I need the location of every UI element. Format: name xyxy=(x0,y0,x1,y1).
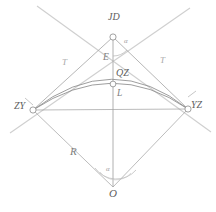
label-jd: JD xyxy=(108,12,120,22)
chord-line-zy-yz xyxy=(34,109,187,110)
label-qz: QZ xyxy=(116,68,129,78)
label-radius-r: R xyxy=(70,146,77,157)
label-tangent-left-t: T xyxy=(62,58,67,67)
point-marker-qz xyxy=(110,81,116,87)
label-angle-alpha-jd: α xyxy=(124,38,128,45)
tangent-lines-group xyxy=(10,6,211,133)
curve-elements-diagram: JD ZY YZ QZ O E L R T T α α xyxy=(0,0,216,212)
point-markers-group xyxy=(30,34,191,113)
label-o: O xyxy=(109,188,117,199)
point-marker-jd xyxy=(110,34,116,40)
segment-jd-zy xyxy=(33,37,113,110)
label-external-distance-e: E xyxy=(103,53,109,63)
label-yz: YZ xyxy=(191,100,202,110)
diagram-canvas xyxy=(0,0,216,212)
tangent-tick-left xyxy=(25,98,33,105)
arc-main xyxy=(33,83,188,110)
tangent-tick-right xyxy=(188,91,196,97)
point-marker-zy xyxy=(30,107,36,113)
label-tangent-right-t: T xyxy=(160,56,165,65)
label-angle-alpha-o: α xyxy=(106,166,110,173)
radius-line-right xyxy=(113,109,188,187)
label-curve-length-l: L xyxy=(117,89,122,99)
label-zy: ZY xyxy=(14,101,25,111)
